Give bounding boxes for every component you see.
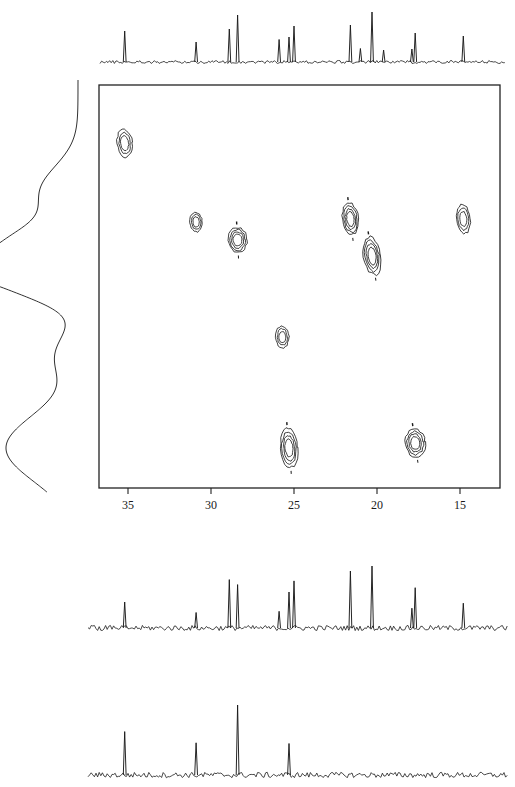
x-axis-tick-label: 20 — [371, 498, 383, 512]
x-axis-tick-label: 25 — [288, 498, 300, 512]
nmr-figure: 3530252015 — [0, 0, 515, 787]
x-axis-tick-label: 30 — [205, 498, 217, 512]
spectrum-canvas: 3530252015 — [0, 0, 515, 787]
x-axis-tick-label: 15 — [454, 498, 466, 512]
x-axis-tick-label: 35 — [122, 498, 134, 512]
